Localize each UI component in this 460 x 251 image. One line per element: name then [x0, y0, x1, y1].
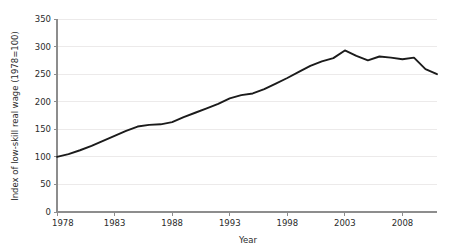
line-chart: 050100150200250300350 197819831988199319…: [0, 0, 460, 251]
y-tick-label: 150: [35, 124, 51, 134]
x-tick-label: 1998: [276, 218, 298, 228]
y-tick-label: 200: [35, 97, 51, 107]
x-tick-label: 2008: [392, 218, 414, 228]
y-axis-title: Index of low-skill real wage (1978=100): [10, 31, 20, 201]
x-tick-label: 1993: [219, 218, 241, 228]
series-line-low-skill-real-wage: [57, 50, 437, 156]
x-axis-title: Year: [238, 235, 258, 245]
y-tick-labels: 050100150200250300350: [35, 14, 51, 217]
chart-container: 050100150200250300350 197819831988199319…: [0, 0, 460, 251]
x-tick-label: 2003: [334, 218, 356, 228]
y-tick-label: 350: [35, 14, 51, 24]
y-tick-label: 100: [35, 152, 51, 162]
y-tick-label: 250: [35, 69, 51, 79]
tick-marks: [54, 19, 403, 216]
x-tick-label: 1978: [52, 218, 74, 228]
x-tick-label: 1988: [161, 218, 183, 228]
y-tick-label: 50: [40, 179, 51, 189]
data-series-group: [57, 50, 437, 156]
x-tick-label: 1983: [104, 218, 126, 228]
y-tick-label: 300: [35, 42, 51, 52]
axes: [57, 19, 437, 212]
x-tick-labels: 1978198319881993199820032008: [52, 218, 413, 228]
y-tick-label: 0: [46, 207, 51, 217]
gridlines: [57, 19, 437, 184]
